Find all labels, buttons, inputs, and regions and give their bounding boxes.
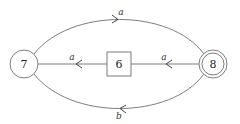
- node-7: 7: [10, 50, 38, 78]
- node-label: 7: [21, 58, 28, 71]
- edge-label: b: [116, 111, 122, 121]
- edge-label: a: [118, 7, 123, 17]
- edge-6-to-7: a: [38, 52, 107, 68]
- edge-8-to-6: a: [131, 52, 199, 68]
- edge-label: a: [161, 52, 166, 62]
- edge-label: a: [69, 52, 74, 62]
- node-6: 6: [107, 52, 131, 76]
- edge-8-to-7-bottom: b: [34, 74, 204, 121]
- arrow-right-icon: [112, 15, 118, 23]
- node-label: 8: [210, 58, 217, 71]
- edge-7-to-8-top: a: [34, 7, 204, 54]
- node-label: 6: [116, 58, 123, 71]
- node-8-accepting: 8: [199, 50, 227, 78]
- automaton-diagram: a a a b 7 6 8: [0, 0, 240, 124]
